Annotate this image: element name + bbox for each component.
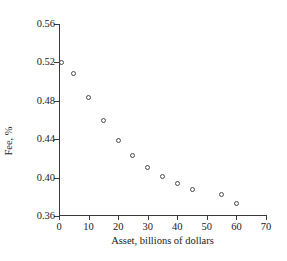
x-tick: [207, 215, 208, 220]
x-tick-label: 10: [83, 222, 94, 233]
y-tick-label: 0.36: [37, 211, 55, 222]
x-tick-label: 50: [202, 222, 213, 233]
x-tick: [118, 215, 119, 220]
x-tick: [59, 215, 60, 220]
data-point: [234, 201, 239, 206]
x-tick-label: 20: [113, 222, 124, 233]
x-tick: [236, 215, 237, 220]
x-tick: [177, 215, 178, 220]
scatter-chart-figure: 0.360.400.440.480.520.56 010203040506070…: [0, 0, 287, 261]
x-tick-label: 30: [142, 222, 153, 233]
data-point: [160, 174, 165, 179]
y-axis-title-text: Fee, %: [0, 11, 18, 261]
x-tick: [266, 215, 267, 220]
data-point: [190, 187, 195, 192]
y-tick-label: 0.40: [37, 172, 55, 183]
y-tick-label: 0.44: [37, 134, 55, 145]
x-tick: [148, 215, 149, 220]
x-tick-label: 40: [172, 222, 183, 233]
data-point: [219, 192, 224, 197]
data-point: [130, 153, 135, 158]
data-point: [86, 95, 91, 100]
data-point: [175, 181, 180, 186]
y-tick-label: 0.56: [37, 19, 55, 30]
y-tick-label: 0.48: [37, 96, 55, 107]
data-point: [116, 138, 121, 143]
y-axis-title: Fee, %: [0, 0, 18, 261]
x-tick-label: 0: [56, 222, 61, 233]
x-tick: [89, 215, 90, 220]
x-axis-line: [59, 215, 266, 216]
data-point: [71, 71, 76, 76]
data-point: [59, 60, 64, 65]
data-point: [101, 118, 106, 123]
y-tick-label: 0.52: [37, 57, 55, 68]
x-tick-label: 60: [231, 222, 242, 233]
y-axis-line: [59, 24, 60, 216]
plot-area: 0.360.400.440.480.520.56 010203040506070: [59, 24, 266, 216]
x-axis-title: Asset, billions of dollars: [59, 236, 266, 247]
x-tick-label: 70: [261, 222, 272, 233]
data-point: [145, 165, 150, 170]
